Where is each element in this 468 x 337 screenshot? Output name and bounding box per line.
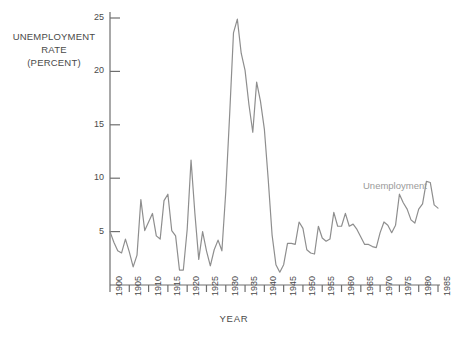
- axis-lines: [110, 12, 440, 285]
- series-line-unemployment: [110, 19, 438, 272]
- series-paths: [110, 19, 438, 272]
- y-axis-title-line-2: RATE: [4, 43, 104, 56]
- y-axis-title-line-1: UNEMPLOYMENT: [4, 30, 104, 43]
- y-tick-label: 20: [84, 65, 104, 75]
- y-tick-label: 25: [84, 12, 104, 22]
- x-tick-label: 1970: [384, 276, 394, 296]
- x-tick-label: 1940: [268, 276, 278, 296]
- x-tick-label: 1900: [114, 276, 124, 296]
- x-axis-title: YEAR: [0, 313, 468, 324]
- x-tick-label: 1910: [153, 276, 163, 296]
- y-tick-label: 5: [84, 226, 104, 236]
- unemployment-line-chart: UNEMPLOYMENT RATE (PERCENT) 510152025 19…: [0, 0, 468, 337]
- x-tick-label: 1945: [288, 276, 298, 296]
- x-tick-label: 1915: [172, 276, 182, 296]
- y-tick-label: 15: [84, 119, 104, 129]
- x-tick-label: 1980: [423, 276, 433, 296]
- x-tick-label: 1950: [307, 276, 317, 296]
- x-tick-label: 1965: [365, 276, 375, 296]
- x-tick-label: 1955: [326, 276, 336, 296]
- y-tick-label: 10: [84, 172, 104, 182]
- x-tick-label: 1930: [230, 276, 240, 296]
- x-tick-label: 1985: [442, 276, 452, 296]
- x-tick-label: 1920: [191, 276, 201, 296]
- x-tick-label: 1905: [133, 276, 143, 296]
- x-tick-label: 1925: [210, 276, 220, 296]
- x-tick-label: 1960: [346, 276, 356, 296]
- x-tick-label: 1935: [249, 276, 259, 296]
- x-tick-label: 1975: [403, 276, 413, 296]
- y-axis-title: UNEMPLOYMENT RATE (PERCENT): [4, 30, 104, 69]
- series-label-unemployment: Unemployment: [363, 180, 427, 191]
